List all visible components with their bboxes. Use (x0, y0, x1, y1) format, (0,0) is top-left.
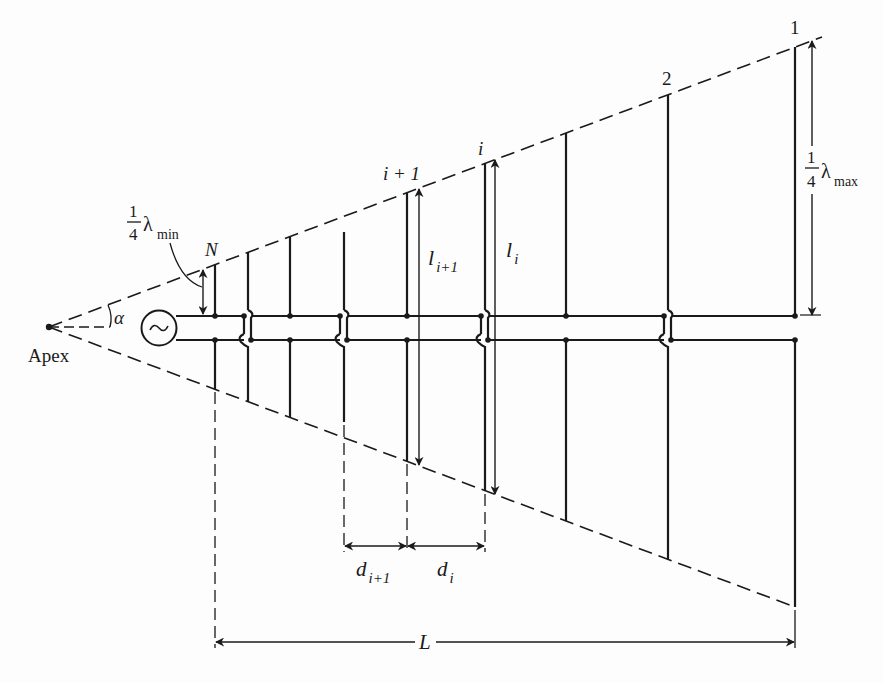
svg-text:λ: λ (143, 213, 153, 235)
lambda-max-label: 1 4 λ max (804, 146, 858, 194)
crossover-elements (240, 95, 673, 559)
spacing-i-label: di (437, 557, 454, 586)
extension-lines (215, 392, 485, 648)
svg-text:λ: λ (821, 160, 831, 182)
dipole-elements (215, 47, 795, 607)
source-tilde-icon (150, 325, 168, 330)
element-1-label: 1 (790, 17, 800, 38)
element-i-plus-1-label: i + 1 (383, 163, 420, 184)
apex-label: Apex (28, 345, 70, 366)
spacing-i-plus-1-label: di+1 (356, 557, 390, 586)
svg-text:1: 1 (807, 148, 816, 167)
length-i-plus-1-label: li+1 (428, 245, 458, 275)
alpha-label: α (114, 307, 125, 328)
svg-text:max: max (834, 174, 858, 189)
svg-text:4: 4 (807, 172, 816, 191)
svg-text:1: 1 (129, 202, 138, 221)
svg-text:4: 4 (129, 225, 138, 244)
upper-envelope-line (49, 37, 822, 327)
svg-text:min: min (157, 227, 179, 242)
element-2-label: 2 (662, 68, 672, 89)
element-i-label: i (478, 138, 483, 159)
element-n-label: N (204, 239, 219, 260)
total-length-label: L (418, 630, 431, 654)
alpha-angle-arc (108, 305, 111, 327)
lpda-diagram: Apex α N i + 1 i 2 1 li+1 li di+1 di L 1… (0, 0, 883, 683)
lambda-min-label: 1 4 λ min (127, 202, 179, 244)
lower-envelope-line (49, 327, 795, 607)
length-i-label: li (506, 237, 518, 267)
